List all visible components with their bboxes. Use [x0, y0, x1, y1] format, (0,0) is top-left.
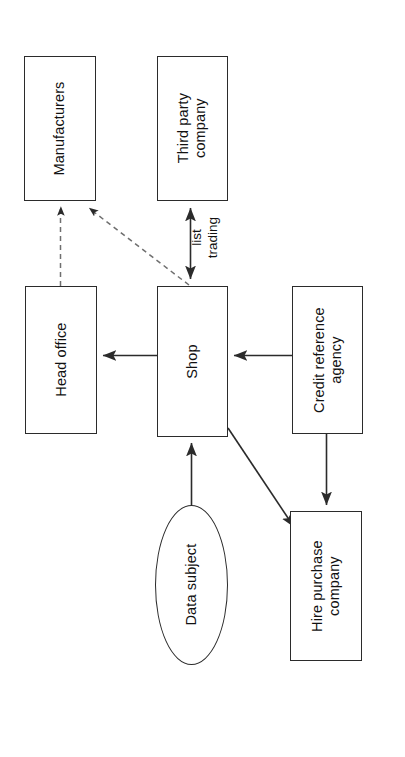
node-head-office[interactable]: Head office	[25, 286, 97, 434]
node-shop[interactable]: Shop	[157, 286, 228, 437]
node-hire-purchase-company-label: Hire purchase company	[309, 540, 343, 632]
node-hire-purchase-company[interactable]: Hire purchase company	[290, 511, 362, 661]
edge-shop-to-hire-purchase-company	[228, 428, 294, 527]
node-third-party-company[interactable]: Third party company	[157, 56, 228, 201]
node-third-party-company-label: Third party company	[175, 93, 209, 163]
node-credit-reference-agency[interactable]: Credit reference agency	[292, 286, 363, 434]
edge-shop-to-manufacturers	[90, 209, 189, 285]
node-manufacturers[interactable]: Manufacturers	[24, 56, 96, 201]
diagram-canvas: Manufacturers Third party company Head o…	[0, 0, 405, 757]
node-data-subject-label: Data subject	[183, 544, 200, 626]
node-manufacturers-label: Manufacturers	[51, 82, 68, 176]
node-credit-reference-agency-label: Credit reference agency	[310, 307, 344, 413]
node-head-office-label: Head office	[52, 323, 69, 397]
edge-label-list-trading: list trading	[189, 217, 220, 258]
node-shop-label: Shop	[184, 344, 201, 378]
node-data-subject[interactable]: Data subject	[155, 505, 228, 665]
